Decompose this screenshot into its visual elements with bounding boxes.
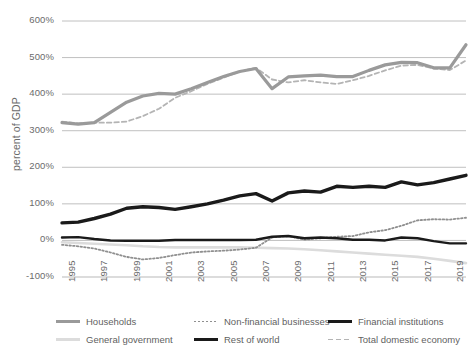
legend-label: Non-financial businesses xyxy=(224,316,330,327)
x-axis-tick-label: 2013 xyxy=(357,260,368,282)
legend-item-non-financial-businesses[interactable]: Non-financial businesses xyxy=(194,316,330,327)
y-axis-tick-label: 200% xyxy=(0,160,54,171)
y-axis-tick-label: 400% xyxy=(0,87,54,98)
x-axis-tick-label: 2011 xyxy=(325,261,336,282)
chart-legend: HouseholdsNon-financial businessesFinanc… xyxy=(56,316,468,352)
x-axis-tick-label: 1995 xyxy=(66,260,77,282)
chart-container: percent of GDP 600%500%400%300%200%100%0… xyxy=(0,0,471,352)
legend-label: Rest of world xyxy=(224,334,279,345)
series-line-rest-of-world xyxy=(62,175,466,223)
legend-swatch-government xyxy=(56,336,80,344)
legend-label: Financial institutions xyxy=(358,316,444,327)
legend-swatch-nonfinancial xyxy=(194,318,218,326)
x-axis-tick-label: 2009 xyxy=(292,260,303,282)
legend-item-households[interactable]: Households xyxy=(56,316,136,327)
y-axis-tick-label: 300% xyxy=(0,124,54,135)
series-line-households xyxy=(62,45,466,124)
x-axis-tick-label: 2007 xyxy=(260,260,271,282)
y-axis-tick-label: 0% xyxy=(0,233,54,244)
legend-swatch-financial xyxy=(328,318,352,326)
legend-label: Total domestic economy xyxy=(358,334,460,345)
x-axis-tick-label: 2003 xyxy=(195,260,206,282)
x-axis-tick-label: 1999 xyxy=(131,260,142,282)
x-axis-tick-label: 2001 xyxy=(163,260,174,282)
x-axis-tick-label: 2019 xyxy=(454,260,465,282)
y-axis-tick-label: 100% xyxy=(0,197,54,208)
legend-item-financial-institutions[interactable]: Financial institutions xyxy=(328,316,444,327)
y-axis-tick-label: -100% xyxy=(0,270,54,281)
x-axis-tick-label: 1997 xyxy=(98,260,109,282)
y-axis-tick-label: 500% xyxy=(0,51,54,62)
series-line-total-domestic-economy xyxy=(62,61,466,124)
y-axis-tick-label: 600% xyxy=(0,14,54,25)
legend-label: Households xyxy=(86,316,136,327)
legend-swatch-restofworld xyxy=(194,336,218,344)
legend-item-total-domestic-economy[interactable]: Total domestic economy xyxy=(328,334,460,345)
x-axis-tick-label: 2005 xyxy=(228,260,239,282)
chart-plot-area xyxy=(0,0,471,352)
legend-label: General government xyxy=(86,334,173,345)
legend-swatch-total xyxy=(328,336,352,344)
legend-item-general-government[interactable]: General government xyxy=(56,334,173,345)
x-axis-tick-label: 2017 xyxy=(422,260,433,282)
legend-item-rest-of-world[interactable]: Rest of world xyxy=(194,334,279,345)
x-axis-tick-label: 2015 xyxy=(389,260,400,282)
legend-swatch-households xyxy=(56,318,80,326)
